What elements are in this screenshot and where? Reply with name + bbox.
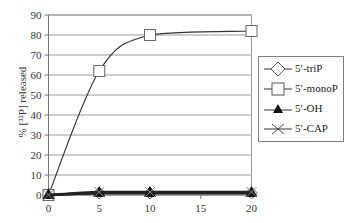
square-marker-icon: [94, 66, 105, 77]
series-monop: [43, 26, 257, 201]
y-tick-label: 60: [31, 69, 43, 81]
legend-item-CAP: 5′-CAP: [259, 119, 345, 139]
legend-label: 5′-OH: [295, 102, 322, 114]
legend-item-monoP: 5′-monoP: [259, 79, 345, 99]
y-tick-label: 40: [31, 109, 43, 121]
y-tick-label: 10: [31, 169, 43, 181]
x-tick-label: 10: [145, 202, 157, 214]
legend-item-OH: 5′-OH: [259, 99, 345, 119]
y-tick-label: 70: [31, 49, 43, 61]
legend-item-triP: 5′-triP: [259, 59, 345, 79]
x-tick-label: 15: [195, 202, 207, 214]
y-tick-label: 90: [31, 9, 43, 21]
y-tick-label: 30: [31, 129, 43, 141]
square-marker-icon: [145, 30, 156, 41]
x-tick-label: 20: [246, 202, 258, 214]
x-tick-labels: 05101520: [46, 202, 258, 214]
y-tick-label: 20: [31, 149, 43, 161]
legend: 5′-triP 5′-monoP 5′-OH 5′-CAP: [258, 56, 344, 142]
legend-label: 5′-triP: [295, 62, 322, 74]
y-tick-labels: 0102030405060708090: [31, 9, 43, 201]
y-tick-label: 0: [36, 189, 42, 201]
axes: [45, 15, 252, 199]
x-tick-label: 5: [97, 202, 103, 214]
legend-label: 5′-CAP: [295, 122, 328, 134]
y-axis-label: % [³²P] released: [16, 42, 28, 162]
square-marker-icon: [246, 26, 257, 37]
triangle-marker-icon: [263, 101, 293, 117]
x-tick-label: 0: [46, 202, 52, 214]
square-marker-icon: [263, 81, 293, 97]
y-tick-label: 50: [31, 89, 43, 101]
y-tick-label: 80: [31, 29, 43, 41]
diamond-marker-icon: [263, 61, 293, 77]
x-marker-icon: [263, 121, 293, 137]
legend-label: 5′-monoP: [295, 82, 338, 94]
